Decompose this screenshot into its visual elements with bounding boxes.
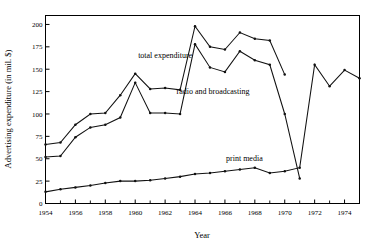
series-label-2: print media bbox=[226, 154, 263, 163]
data-point bbox=[104, 112, 107, 115]
data-point bbox=[59, 141, 62, 144]
data-point bbox=[209, 66, 212, 69]
data-point bbox=[224, 170, 227, 173]
data-point bbox=[269, 63, 272, 66]
data-point bbox=[239, 50, 242, 53]
y-tick-label: 200 bbox=[32, 21, 43, 29]
data-point bbox=[224, 71, 227, 74]
series-label-1: radio and broadcasting bbox=[177, 87, 250, 96]
data-point bbox=[44, 143, 47, 146]
data-point bbox=[119, 180, 122, 183]
x-tick-label: 1974 bbox=[338, 209, 353, 217]
y-tick-label: 150 bbox=[32, 66, 43, 74]
data-point bbox=[74, 136, 77, 139]
x-tick-label: 1960 bbox=[128, 209, 143, 217]
data-point bbox=[328, 85, 331, 88]
y-tick-label: 0 bbox=[39, 200, 43, 208]
x-axis-title: Year bbox=[194, 230, 210, 240]
data-point bbox=[209, 172, 212, 175]
data-point bbox=[194, 173, 197, 176]
data-point bbox=[149, 179, 152, 182]
data-point bbox=[44, 191, 47, 194]
data-point bbox=[194, 25, 197, 28]
x-tick-label: 1958 bbox=[98, 209, 113, 217]
data-point bbox=[209, 46, 212, 49]
data-point bbox=[313, 63, 316, 66]
data-point bbox=[44, 156, 47, 159]
data-point bbox=[283, 73, 286, 76]
data-point bbox=[269, 39, 272, 42]
data-point bbox=[358, 77, 361, 80]
data-point bbox=[164, 87, 167, 90]
x-tick-label: 1962 bbox=[158, 209, 173, 217]
data-point bbox=[164, 177, 167, 180]
data-point bbox=[283, 170, 286, 173]
data-point bbox=[179, 175, 182, 178]
data-point bbox=[89, 126, 92, 128]
data-point bbox=[239, 31, 242, 34]
data-point bbox=[134, 81, 137, 84]
y-tick-label: 100 bbox=[32, 111, 43, 119]
data-point bbox=[269, 172, 272, 175]
x-tick-label: 1966 bbox=[218, 209, 233, 217]
data-point bbox=[224, 48, 227, 51]
x-tick-label: 1964 bbox=[188, 209, 203, 217]
data-point bbox=[74, 186, 77, 189]
data-point bbox=[74, 123, 77, 126]
data-point bbox=[59, 188, 62, 191]
data-point bbox=[134, 180, 137, 183]
data-point bbox=[343, 69, 346, 72]
line-chart: 0255075100125150175200 19541956195819601… bbox=[0, 0, 380, 246]
chart-container: 0255075100125150175200 19541956195819601… bbox=[0, 0, 380, 246]
data-point bbox=[254, 166, 257, 169]
data-point bbox=[254, 59, 257, 62]
x-tick-label: 1956 bbox=[68, 209, 83, 217]
data-point bbox=[254, 38, 257, 41]
data-point bbox=[89, 184, 92, 187]
data-point bbox=[283, 113, 286, 116]
data-point bbox=[119, 94, 122, 97]
data-point bbox=[119, 116, 122, 119]
y-axis-title: Advertising expenditure (in mil. $) bbox=[3, 49, 13, 168]
data-point bbox=[104, 123, 107, 126]
data-point bbox=[59, 155, 62, 158]
data-point bbox=[298, 177, 301, 180]
data-point bbox=[134, 72, 137, 75]
x-tick-label: 1972 bbox=[308, 209, 323, 217]
y-tick-label: 125 bbox=[32, 88, 43, 96]
x-tick-label: 1970 bbox=[278, 209, 293, 217]
y-tick-label: 50 bbox=[36, 155, 44, 163]
data-point bbox=[104, 182, 107, 185]
y-tick-label: 75 bbox=[36, 133, 44, 141]
data-point bbox=[149, 88, 152, 91]
data-point bbox=[194, 43, 197, 46]
x-tick-label: 1968 bbox=[248, 209, 263, 217]
data-point bbox=[89, 113, 92, 116]
series-label-0: total expenditure bbox=[138, 51, 192, 60]
y-tick-label: 25 bbox=[36, 178, 44, 186]
y-tick-label: 175 bbox=[32, 43, 43, 51]
data-point bbox=[298, 166, 301, 169]
x-tick-label: 1954 bbox=[39, 209, 54, 217]
data-point bbox=[164, 112, 167, 115]
data-point bbox=[179, 113, 182, 116]
data-point bbox=[149, 112, 152, 115]
data-point bbox=[239, 168, 242, 171]
